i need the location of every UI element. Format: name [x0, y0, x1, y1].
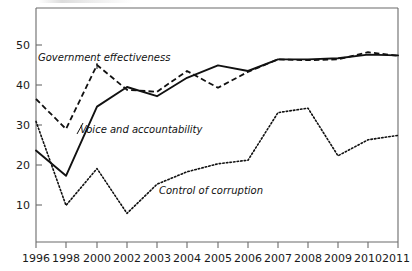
x-tick-label-2007: 2007: [264, 252, 292, 265]
x-tick-label-2009: 2009: [324, 252, 352, 265]
x-tick-label-1998: 1998: [52, 252, 80, 265]
y-tick-label-10: 10: [16, 199, 30, 212]
x-tick-label-2003: 2003: [143, 252, 171, 265]
x-tick-label-2002: 2002: [113, 252, 141, 265]
y-tick-label-40: 40: [16, 79, 30, 92]
x-tick-label-2011: 2011: [382, 252, 410, 265]
series-government-effectiveness: [36, 52, 398, 129]
line-chart: 50 40 30 20 10 1996 1998 2000 2002 2003 …: [0, 0, 412, 271]
series-label-government-effectiveness: Government effectiveness: [38, 52, 170, 63]
series-voice-and-accountability: [36, 55, 398, 176]
x-tick-label-2000: 2000: [83, 252, 111, 265]
x-tick-label-2005: 2005: [204, 252, 232, 265]
y-tick-label-20: 20: [16, 159, 30, 172]
x-tick-label-2006: 2006: [234, 252, 262, 265]
x-tick-label-2004: 2004: [173, 252, 201, 265]
x-tick-label-2008: 2008: [294, 252, 322, 265]
x-tick-label-2010: 2010: [354, 252, 382, 265]
series-label-voice-and-accountability: Voice and accountability: [80, 124, 204, 135]
y-tick-label-30: 30: [16, 119, 30, 132]
x-tick-label-1996: 1996: [22, 252, 50, 265]
y-tick-label-50: 50: [16, 39, 30, 52]
chart-page: 50 40 30 20 10 1996 1998 2000 2002 2003 …: [0, 0, 412, 271]
series-label-control-of-corruption: Control of corruption: [159, 185, 263, 196]
